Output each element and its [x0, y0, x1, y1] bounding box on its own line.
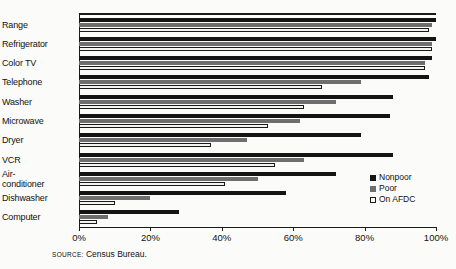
bar-poor	[79, 42, 432, 46]
bar-group	[79, 54, 436, 73]
bar-nonpoor	[79, 18, 436, 22]
bar-poor	[79, 138, 247, 142]
x-axis-tick-mark	[365, 227, 366, 231]
x-axis-tick-label: 0%	[72, 232, 86, 243]
x-axis-tick-mark	[436, 227, 437, 231]
category-label-refrigerator: Refrigerator	[2, 39, 76, 49]
x-axis-tick-mark	[150, 227, 151, 231]
bar-nonpoor	[79, 114, 390, 118]
bar-afdc	[79, 163, 275, 167]
legend-swatch-afdc	[370, 197, 376, 203]
category-label-line: Washer	[2, 97, 76, 107]
legend-label-nonpoor: Nonpoor	[379, 173, 412, 182]
category-label-line: Dryer	[2, 135, 76, 145]
legend-item-afdc: On AFDC	[370, 194, 450, 205]
x-axis-tick-label: 60%	[284, 232, 303, 243]
category-label-telephone: Telephone	[2, 77, 76, 87]
legend-swatch-nonpoor	[370, 175, 376, 181]
legend-item-nonpoor: Nonpoor	[370, 172, 450, 183]
category-label-range: Range	[2, 20, 76, 30]
bar-nonpoor	[79, 37, 436, 41]
bar-afdc	[79, 66, 425, 70]
category-label-line: conditioner	[2, 179, 76, 189]
category-label-air-conditioner: Air-conditioner	[2, 169, 76, 189]
bar-afdc	[79, 105, 304, 109]
category-label-color-tv: Color TV	[2, 58, 76, 68]
bar-nonpoor	[79, 172, 336, 176]
category-label-line: Dishwasher	[2, 193, 76, 203]
category-label-dishwasher: Dishwasher	[2, 193, 76, 203]
bar-nonpoor	[79, 191, 286, 195]
category-label-vcr: VCR	[2, 155, 76, 165]
bar-group	[79, 131, 436, 150]
bar-afdc	[79, 47, 432, 51]
bar-nonpoor	[79, 75, 429, 79]
bar-afdc	[79, 201, 115, 205]
chart-legend: NonpoorPoorOn AFDC	[370, 172, 450, 205]
category-label-line: Air-	[2, 169, 76, 179]
bar-group	[79, 34, 436, 53]
bar-group	[79, 150, 436, 169]
chart-figure: RangeRefrigeratorColor TVTelephoneWasher…	[0, 0, 456, 269]
category-label-line: Color TV	[2, 58, 76, 68]
source-text-label: Census Bureau.	[86, 249, 147, 259]
category-axis-labels: RangeRefrigeratorColor TVTelephoneWasher…	[0, 15, 76, 227]
legend-swatch-poor	[370, 186, 376, 192]
bar-nonpoor	[79, 95, 393, 99]
x-axis-tick-label: 80%	[355, 232, 374, 243]
category-label-microwave: Microwave	[2, 116, 76, 126]
bar-poor	[79, 61, 425, 65]
x-axis-tick-label: 100%	[424, 232, 448, 243]
category-label-washer: Washer	[2, 97, 76, 107]
x-axis-tick-label: 20%	[141, 232, 160, 243]
category-label-dryer: Dryer	[2, 135, 76, 145]
bar-poor	[79, 119, 300, 123]
bar-afdc	[79, 143, 211, 147]
x-axis-line	[79, 227, 437, 228]
bar-group	[79, 208, 436, 227]
bar-afdc	[79, 182, 225, 186]
bar-afdc	[79, 220, 97, 224]
x-axis-tick-mark	[222, 227, 223, 231]
bar-poor	[79, 215, 108, 219]
category-label-line: Computer	[2, 212, 76, 222]
bar-group	[79, 15, 436, 34]
legend-label-afdc: On AFDC	[379, 195, 415, 204]
category-label-line: Refrigerator	[2, 39, 76, 49]
bar-poor	[79, 23, 432, 27]
category-label-line: Telephone	[2, 77, 76, 87]
source-prefix-label: SOURCE:	[52, 251, 84, 258]
bar-nonpoor	[79, 56, 432, 60]
bar-afdc	[79, 28, 429, 32]
x-axis-tick-mark	[293, 227, 294, 231]
category-label-line: Range	[2, 20, 76, 30]
bar-afdc	[79, 85, 322, 89]
category-label-line: Microwave	[2, 116, 76, 126]
bar-nonpoor	[79, 210, 179, 214]
category-label-line: VCR	[2, 155, 76, 165]
bar-afdc	[79, 124, 268, 128]
bar-poor	[79, 196, 150, 200]
legend-item-poor: Poor	[370, 183, 450, 194]
bar-group	[79, 92, 436, 111]
bar-group	[79, 111, 436, 130]
bar-nonpoor	[79, 133, 361, 137]
category-label-computer: Computer	[2, 212, 76, 222]
bar-poor	[79, 80, 361, 84]
x-axis-tick-label: 40%	[212, 232, 231, 243]
bar-nonpoor	[79, 153, 393, 157]
bar-poor	[79, 100, 336, 104]
bar-group	[79, 73, 436, 92]
x-axis-tick-mark	[79, 227, 80, 231]
bar-poor	[79, 158, 304, 162]
legend-label-poor: Poor	[379, 184, 397, 193]
source-note: SOURCE: Census Bureau.	[52, 249, 147, 260]
bar-poor	[79, 177, 258, 181]
